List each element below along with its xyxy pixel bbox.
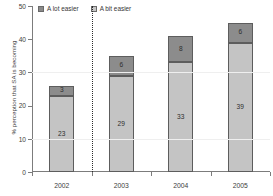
bar-value-label: 29 [118,121,125,128]
x-tick [32,172,33,176]
bar-segment-a-lot-easier-2003[interactable]: 6 [109,56,134,76]
x-axis-label-2003: 2003 [101,182,141,189]
y-tick-label: 30 [19,69,26,76]
x-tick [270,172,271,176]
bar-segment-a-lot-easier-2004[interactable]: 8 [168,36,193,63]
y-tick-label: 0 [22,169,26,176]
bar-segment-a-bit-easier-2002[interactable]: 23 [49,96,74,172]
bar-segment-a-bit-easier-2003[interactable]: 29 [109,76,134,172]
bar-2004[interactable]: 338 [168,36,193,172]
y-tick: 40 [28,39,32,40]
x-tick [151,172,152,176]
y-tick: 50 [28,6,32,7]
bar-value-label: 23 [58,131,65,138]
bar-value-label: 6 [119,62,123,69]
bar-value-label: 39 [237,104,244,111]
y-tick: 10 [28,139,32,140]
bar-segment-a-bit-easier-2004[interactable]: 33 [168,62,193,172]
bar-value-label: 8 [179,46,183,53]
bar-2003[interactable]: 296 [109,56,134,172]
plot-area: 01020304050 233296338396 200220032004200… [32,6,270,172]
stacked-bar-chart: % perception that SA is becoming A lot e… [0,0,273,196]
y-tick-label: 40 [19,36,26,43]
x-axis-label-2004: 2004 [161,182,201,189]
bar-segment-a-lot-easier-2002[interactable]: 3 [49,86,74,96]
x-tick [92,172,93,176]
bar-segment-a-bit-easier-2005[interactable]: 39 [228,43,253,172]
x-tick [211,172,212,176]
bar-value-label: 33 [177,114,184,121]
y-axis-title: % perception that SA is becoming [10,13,17,163]
y-tick-label: 10 [19,136,26,143]
bar-value-label: 3 [60,87,64,94]
y-tick-label: 20 [19,102,26,109]
bar-value-label: 6 [238,29,242,36]
y-axis-line [32,6,33,172]
y-tick: 20 [28,106,32,107]
bar-2002[interactable]: 233 [49,86,74,172]
x-axis-label-2005: 2005 [220,182,260,189]
period-divider-line [92,6,93,172]
x-axis-label-2002: 2002 [42,182,82,189]
bar-segment-a-lot-easier-2005[interactable]: 6 [228,23,253,43]
bar-2005[interactable]: 396 [228,23,253,172]
y-tick-label: 50 [19,3,26,10]
y-tick: 30 [28,72,32,73]
